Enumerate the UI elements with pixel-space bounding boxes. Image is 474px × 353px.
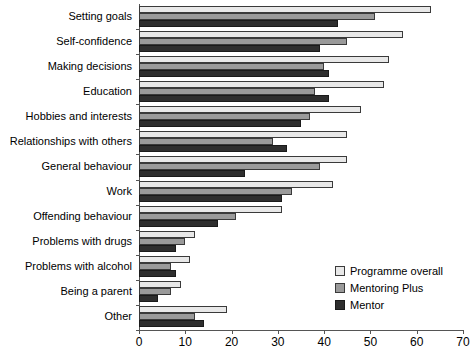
- bar: [139, 31, 403, 38]
- bar: [139, 295, 158, 302]
- value-tick-label: 40: [304, 335, 344, 349]
- bar: [139, 206, 282, 213]
- bar: [139, 88, 315, 95]
- value-tick: [232, 330, 233, 334]
- category-label: Self-confidence: [0, 35, 132, 47]
- category-label: Work: [0, 185, 132, 197]
- legend-label: Mentor: [350, 299, 384, 311]
- bar: [139, 163, 320, 170]
- legend-swatch-icon: [335, 283, 345, 293]
- value-tick-label: 60: [397, 335, 437, 349]
- bar: [139, 220, 218, 227]
- bar: [139, 213, 236, 220]
- bar: [139, 238, 185, 245]
- value-tick: [278, 330, 279, 334]
- legend-item[interactable]: Programme overall: [335, 262, 461, 279]
- bar: [139, 20, 338, 27]
- legend-label: Mentoring Plus: [350, 282, 423, 294]
- bar: [139, 313, 195, 320]
- bar-group: [139, 181, 463, 206]
- bar: [139, 13, 375, 20]
- legend-label: Programme overall: [350, 265, 443, 277]
- category-label: Problems with drugs: [0, 235, 132, 247]
- legend-item[interactable]: Mentoring Plus: [335, 279, 461, 296]
- category-axis: Setting goalsSelf-confidenceMaking decis…: [0, 4, 136, 330]
- value-tick-label: 20: [212, 335, 252, 349]
- value-tick-label: 10: [165, 335, 205, 349]
- bar-group: [139, 131, 463, 156]
- value-tick-label: 0: [119, 335, 159, 349]
- bar-group: [139, 31, 463, 56]
- bar: [139, 231, 195, 238]
- bar: [139, 6, 431, 13]
- bar: [139, 245, 176, 252]
- category-label: General behaviour: [0, 160, 132, 172]
- legend-swatch-icon: [335, 266, 345, 276]
- bar: [139, 113, 310, 120]
- bar: [139, 145, 287, 152]
- bar: [139, 38, 347, 45]
- category-label: Education: [0, 85, 132, 97]
- bar: [139, 256, 190, 263]
- category-label: Offending behaviour: [0, 210, 132, 222]
- bar-group: [139, 6, 463, 31]
- category-label: Setting goals: [0, 10, 132, 22]
- value-tick-label: 30: [258, 335, 298, 349]
- value-tick: [370, 330, 371, 334]
- category-label: Making decisions: [0, 60, 132, 72]
- category-label: Being a parent: [0, 285, 132, 297]
- bar: [139, 270, 176, 277]
- bar: [139, 120, 301, 127]
- legend-swatch-icon: [335, 300, 345, 310]
- value-tick-label: 50: [350, 335, 390, 349]
- bar: [139, 306, 227, 313]
- bar: [139, 45, 320, 52]
- bar-group: [139, 56, 463, 81]
- value-tick: [324, 330, 325, 334]
- bar: [139, 156, 347, 163]
- category-label: Problems with alcohol: [0, 260, 132, 272]
- bar-group: [139, 156, 463, 181]
- bar: [139, 320, 204, 327]
- value-tick: [417, 330, 418, 334]
- value-tick-label: 70: [443, 335, 474, 349]
- bar: [139, 81, 384, 88]
- bar: [139, 63, 324, 70]
- bar-group: [139, 106, 463, 131]
- bar: [139, 281, 181, 288]
- bar: [139, 70, 329, 77]
- bar: [139, 138, 273, 145]
- bar: [139, 170, 245, 177]
- category-label: Other: [0, 310, 132, 322]
- legend: Programme overallMentoring PlusMentor: [335, 262, 461, 313]
- category-label: Hobbies and interests: [0, 110, 132, 122]
- bar-group: [139, 231, 463, 256]
- value-tick: [463, 330, 464, 334]
- value-axis: 010203040506070: [139, 330, 463, 353]
- bar: [139, 263, 171, 270]
- bar: [139, 195, 282, 202]
- value-tick: [185, 330, 186, 334]
- legend-item[interactable]: Mentor: [335, 296, 461, 313]
- bar: [139, 106, 361, 113]
- bar: [139, 131, 347, 138]
- bar: [139, 181, 333, 188]
- bar-group: [139, 206, 463, 231]
- bar: [139, 95, 329, 102]
- bar-group: [139, 81, 463, 106]
- value-tick: [139, 330, 140, 334]
- bar: [139, 288, 171, 295]
- bar: [139, 56, 389, 63]
- bar: [139, 188, 292, 195]
- category-label: Relationships with others: [0, 135, 132, 147]
